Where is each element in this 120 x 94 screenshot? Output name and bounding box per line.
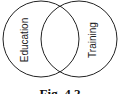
label-training: Training — [87, 22, 98, 58]
label-education: Education — [19, 18, 30, 62]
venn-diagram: Education Training Fig. 4.2 — [0, 0, 120, 94]
figure-caption: Fig. 4.2 — [40, 86, 81, 94]
